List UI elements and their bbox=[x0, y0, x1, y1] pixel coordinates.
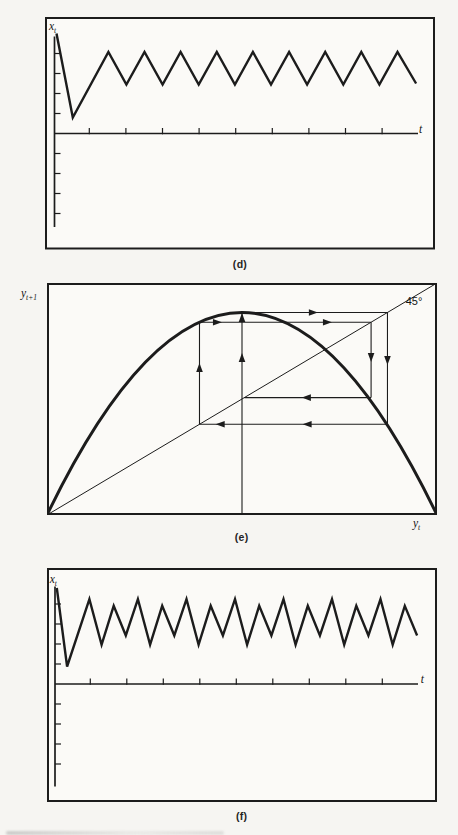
flow-arrow bbox=[323, 318, 332, 325]
time-series-curve bbox=[57, 34, 417, 118]
panel-f-y-axis-label: xt bbox=[50, 574, 57, 587]
flow-arrow bbox=[302, 394, 311, 401]
flow-arrow bbox=[238, 352, 245, 361]
panel-e-x-axis-label: yt bbox=[413, 518, 420, 531]
textbook-figure-page: xt t (d) 45° yt+1 yt (e) xt t (f) bbox=[0, 0, 458, 835]
panel-e-y-axis-label: yt+1 bbox=[21, 288, 37, 301]
panel-f-plot bbox=[47, 568, 437, 802]
flow-arrow bbox=[196, 362, 203, 371]
panel-d-t-axis-label: t bbox=[419, 124, 422, 136]
time-series-curve bbox=[56, 588, 416, 667]
panel-d-plot bbox=[45, 17, 435, 250]
panel-e-frame: 45° bbox=[47, 283, 437, 515]
flow-arrow bbox=[367, 352, 374, 361]
flow-arrow bbox=[384, 355, 391, 364]
cutoff-caption-remnant bbox=[6, 831, 224, 835]
panel-f-frame: xt t bbox=[47, 568, 437, 802]
flow-arrow bbox=[215, 420, 224, 427]
panel-e-plot bbox=[47, 283, 437, 515]
panel-f-caption: (f) bbox=[47, 810, 437, 822]
panel-f-t-axis-label: t bbox=[421, 674, 424, 686]
panel-d-y-axis-label: xt bbox=[49, 21, 56, 34]
panel-d-frame: xt t bbox=[45, 17, 435, 250]
flow-arrow bbox=[302, 420, 311, 427]
flow-arrow bbox=[309, 309, 318, 316]
flow-arrow bbox=[213, 318, 222, 325]
panel-d-caption: (d) bbox=[45, 258, 435, 270]
panel-e-45-degree-label: 45° bbox=[406, 296, 423, 307]
flow-arrow bbox=[238, 313, 245, 322]
panel-e-caption: (e) bbox=[47, 531, 437, 543]
